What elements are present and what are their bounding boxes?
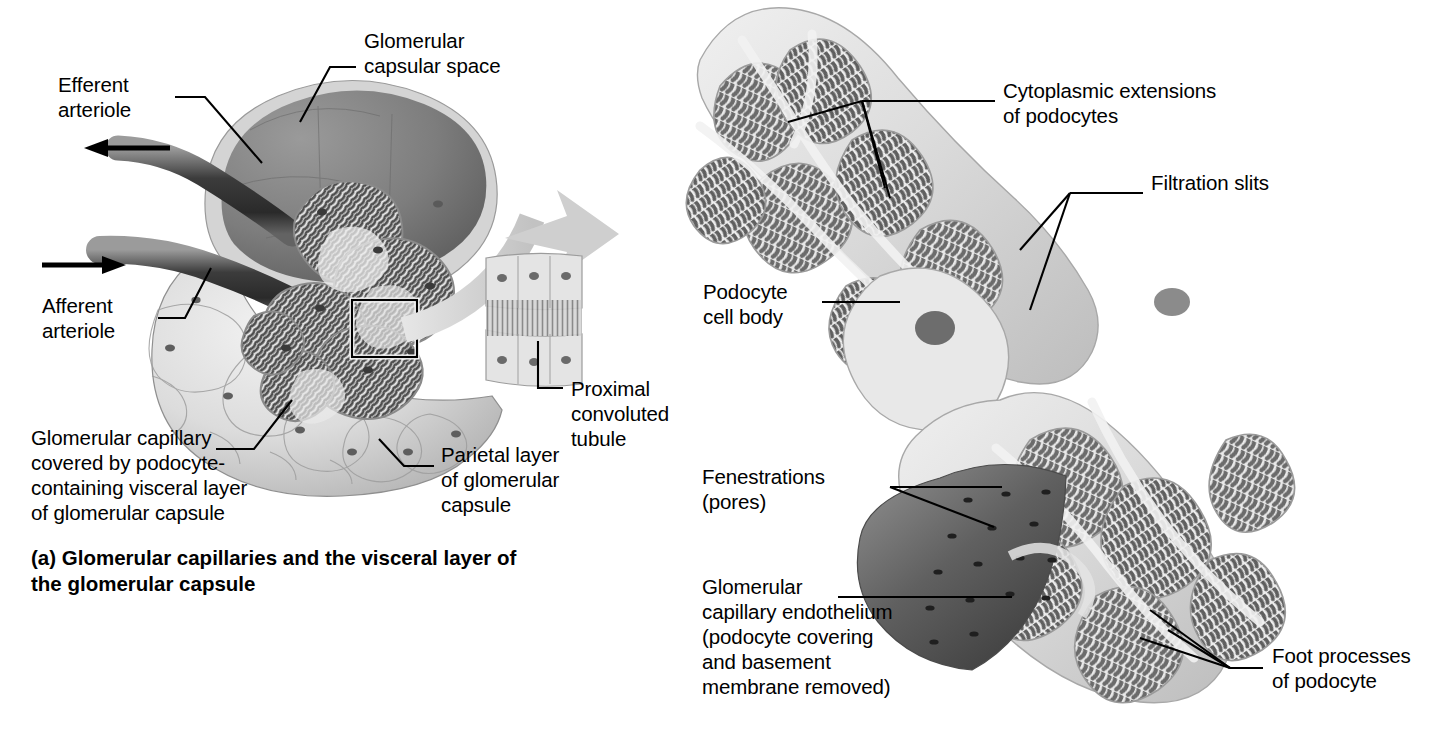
label-efferent-arteriole: Efferent arteriole bbox=[58, 72, 131, 122]
label-glomerular-capillary: Glomerular capillary covered by podocyte… bbox=[31, 425, 247, 525]
label-cytoplasmic-extensions: Cytoplasmic extensions of podocytes bbox=[1003, 78, 1216, 128]
figure-caption-a: (a) Glomerular capillaries and the visce… bbox=[31, 545, 516, 597]
proximal-convoluted-tubule-shape bbox=[486, 253, 582, 386]
label-afferent-arteriole: Afferent arteriole bbox=[42, 293, 115, 343]
label-podocyte-cell-body: Podocyte cell body bbox=[703, 279, 788, 329]
label-filtration-slits: Filtration slits bbox=[1151, 170, 1269, 195]
podocyte-nucleus-secondary bbox=[1154, 288, 1190, 316]
label-glomerular-capillary-endothelium: Glomerular capillary endothelium (podocy… bbox=[702, 574, 892, 699]
label-fenestrations: Fenestrations (pores) bbox=[702, 464, 825, 514]
label-glomerular-capsular-space: Glomerular capsular space bbox=[364, 28, 501, 78]
podocyte-nucleus bbox=[915, 311, 955, 345]
label-proximal-convoluted-tubule: Proximal convoluted tubule bbox=[571, 376, 669, 451]
anatomy-figure-glomerulus: Efferent arteriole Glomerular capsular s… bbox=[0, 0, 1444, 730]
label-parietal-layer: Parietal layer of glomerular capsule bbox=[441, 442, 559, 517]
label-foot-processes: Foot processes of podocyte bbox=[1272, 643, 1411, 693]
